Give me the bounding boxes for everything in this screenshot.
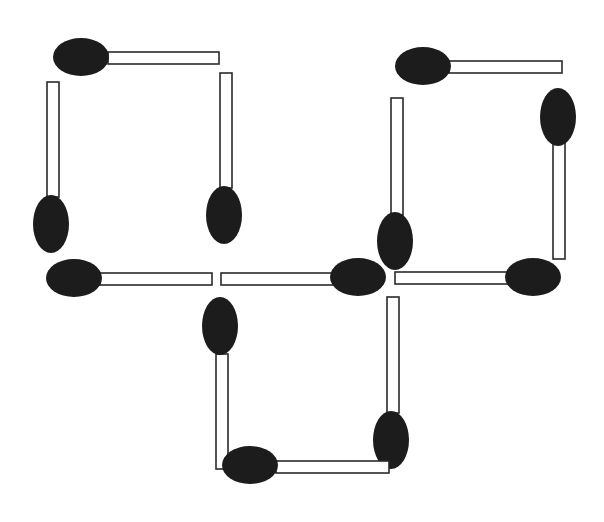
match-stick [108,52,219,64]
match-head [377,212,413,270]
matchstick-7 [377,98,413,270]
match-head [222,446,278,484]
matches-group [33,38,576,484]
matchstick-8 [540,88,576,259]
matchstick-puzzle-diagram [0,0,604,522]
match-stick [387,297,399,413]
matchstick-1 [53,38,219,76]
match-head [395,47,451,85]
match-stick [47,82,59,197]
match-stick [220,73,232,188]
match-stick [216,354,228,469]
match-head [202,297,238,355]
matchstick-10 [202,297,238,469]
matchstick-5 [221,258,386,296]
matchstick-2 [33,82,69,253]
match-head [46,259,102,297]
matchstick-9 [395,258,561,296]
match-head [33,195,69,253]
matchstick-6 [395,47,562,85]
match-stick [449,61,562,73]
matchstick-12 [222,446,389,484]
match-stick [100,273,212,285]
match-stick [221,273,334,285]
match-stick [391,98,403,215]
matchstick-4 [46,259,212,297]
match-head [53,38,109,76]
match-head [505,258,561,296]
match-head [206,186,242,244]
match-head [540,88,576,146]
match-stick [395,272,508,284]
matchstick-11 [373,297,409,469]
match-head [330,258,386,296]
match-stick [553,143,565,259]
matchstick-3 [206,73,242,244]
match-stick [276,461,389,473]
